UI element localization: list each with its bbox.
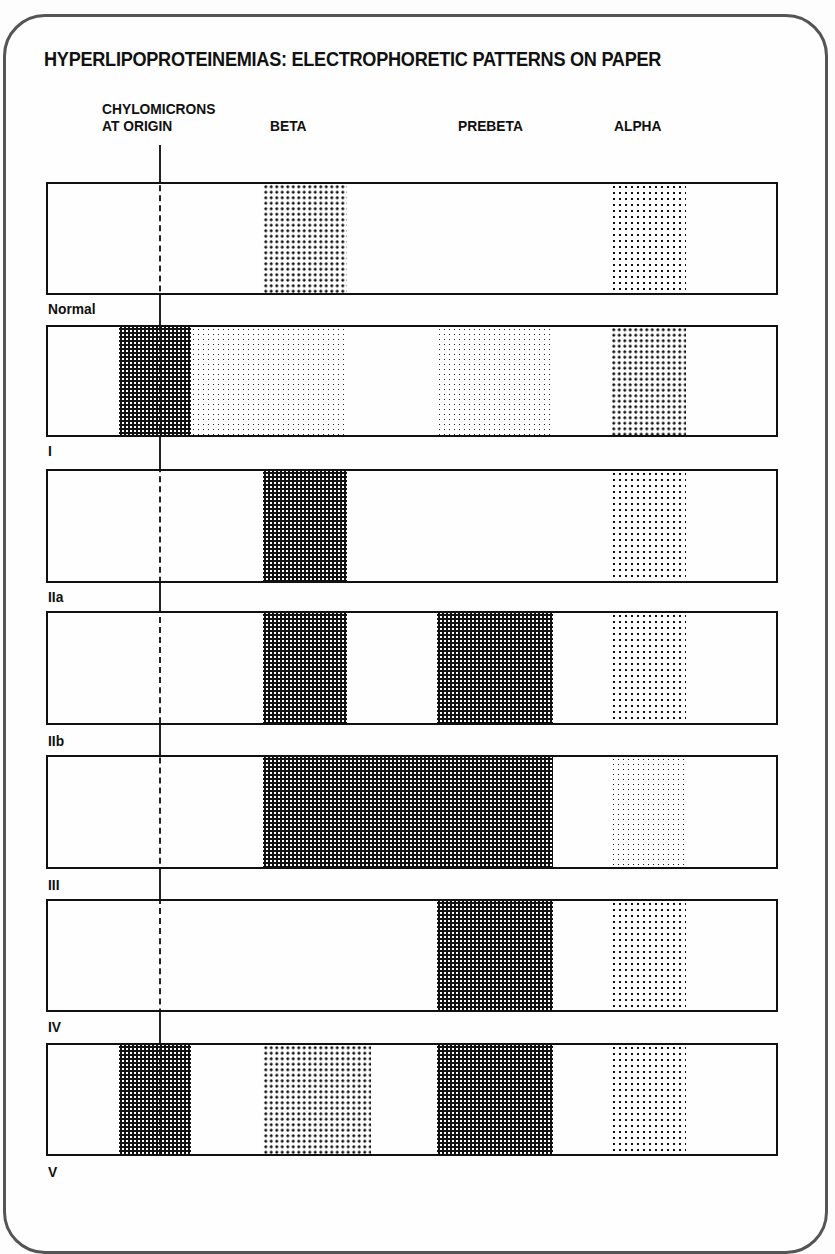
band-prebeta: [437, 613, 553, 723]
origin-line-segment: [159, 145, 161, 183]
origin-line-segment: [159, 436, 161, 470]
band-alpha: [611, 1045, 686, 1154]
band-prebeta: [437, 1045, 553, 1154]
row-label-type-v: V: [48, 1163, 57, 1180]
strip-type-v: [46, 1043, 778, 1156]
origin-line-segment: [159, 868, 161, 900]
column-label-line2: AT ORIGIN: [102, 117, 215, 134]
row-label-type-iia: IIa: [48, 588, 63, 605]
band-prebeta: [437, 901, 553, 1010]
column-label-line1: CHYLOMICRONS: [102, 100, 215, 117]
row-label-type-iii: III: [48, 876, 60, 893]
row-label-type-iib: IIb: [48, 732, 64, 749]
origin-line-segment: [159, 724, 161, 756]
origin-line-segment: [159, 294, 161, 326]
row-label-type-i: I: [48, 442, 52, 459]
band-alpha: [611, 184, 686, 293]
band-beta-faint: [191, 327, 347, 435]
strip-type-iib: [46, 611, 778, 725]
figure-title: HYPERLIPOPROTEINEMIAS: ELECTROPHORETIC P…: [44, 48, 661, 71]
strip-type-iv: [46, 899, 778, 1012]
band-alpha: [611, 613, 686, 723]
band-prebeta-faint: [437, 327, 552, 435]
band-beta: [263, 471, 347, 581]
band-broad-beta: [263, 757, 553, 867]
strip-type-iii: [46, 755, 778, 869]
column-label-prebeta: PREBETA: [458, 117, 523, 134]
band-beta: [263, 1045, 371, 1154]
origin-line-segment: [159, 1010, 161, 1044]
column-label-chylomicrons: CHYLOMICRONS AT ORIGIN: [102, 100, 215, 134]
row-label-normal: Normal: [48, 300, 96, 317]
column-label-beta: BETA: [270, 117, 307, 134]
band-alpha: [611, 327, 686, 435]
band-beta: [263, 184, 347, 293]
strip-normal: [46, 182, 778, 295]
column-label-alpha: ALPHA: [614, 117, 662, 134]
row-label-type-iv: IV: [48, 1018, 61, 1035]
origin-line-segment: [159, 582, 161, 612]
band-chylomicrons: [119, 1045, 191, 1154]
band-alpha: [611, 757, 686, 867]
band-beta: [263, 613, 347, 723]
strip-type-iia: [46, 469, 778, 583]
band-chylomicrons: [119, 327, 191, 435]
band-alpha: [611, 901, 686, 1010]
strip-type-i: [46, 325, 778, 437]
band-alpha: [611, 471, 686, 581]
